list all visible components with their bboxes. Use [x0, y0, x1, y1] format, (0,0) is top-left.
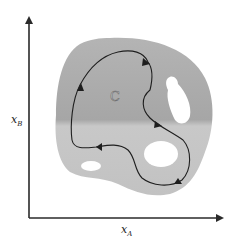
state-space-diagram: C xB xA [0, 0, 238, 246]
lower-right-hole [144, 141, 178, 167]
x-axis-label: xA [121, 223, 132, 238]
region-c [56, 38, 213, 195]
y-axis-label: xB [11, 113, 22, 128]
lower-left-hole [81, 161, 101, 171]
region-label: C [110, 89, 120, 104]
